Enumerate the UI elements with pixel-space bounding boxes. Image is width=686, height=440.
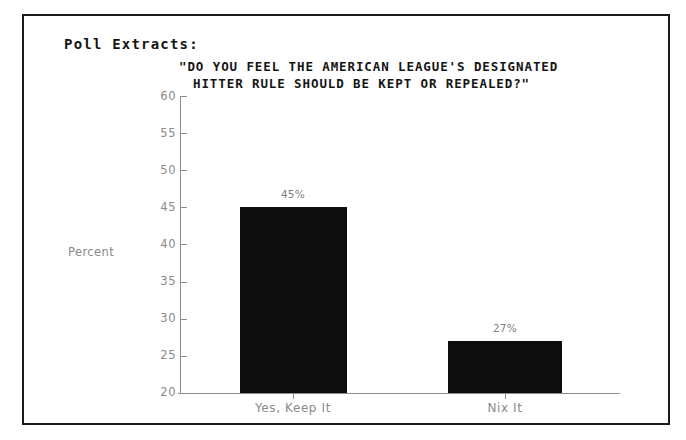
y-tick-label: 40 (146, 238, 176, 250)
y-tick-label: 35 (146, 275, 176, 287)
y-tick-mark (181, 170, 187, 171)
x-axis-category-label: Yes, Keep It (213, 401, 373, 415)
y-tick-label: 60 (146, 90, 176, 102)
y-tick-label: 45 (146, 201, 176, 213)
y-tick-label: 55 (146, 127, 176, 139)
y-tick-mark (181, 133, 187, 134)
x-tick-mark (293, 394, 294, 399)
bar-value-label: 45% (263, 188, 323, 200)
y-tick-label: 25 (146, 349, 176, 361)
bar-value-label: 27% (475, 322, 535, 334)
y-tick-label: 50 (146, 164, 176, 176)
y-tick-mark (181, 244, 187, 245)
y-axis-tick-labels: 60 55 50 45 40 35 30 25 20 (140, 0, 176, 440)
y-axis-line (180, 96, 181, 394)
y-tick-label: 30 (146, 312, 176, 324)
y-tick-mark (181, 96, 187, 97)
y-tick-mark (181, 282, 187, 283)
x-axis-line (178, 393, 620, 394)
y-tick-label: 20 (146, 386, 176, 398)
bar-nix-it[interactable] (448, 341, 562, 393)
x-tick-mark (505, 394, 506, 399)
y-axis-title: Percent (68, 245, 114, 259)
y-tick-mark (181, 356, 187, 357)
y-tick-mark (181, 319, 187, 320)
y-tick-mark (181, 393, 187, 394)
x-axis-category-label: Nix It (425, 401, 585, 415)
bar-yes-keep-it[interactable] (240, 207, 347, 393)
y-tick-mark (181, 207, 187, 208)
bar-chart: Percent 60 55 50 45 40 35 30 25 20 45% 2… (0, 0, 686, 440)
